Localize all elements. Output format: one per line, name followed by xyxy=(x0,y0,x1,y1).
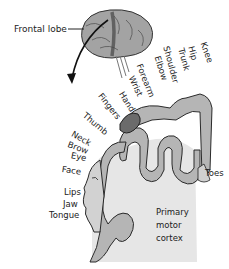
label-region-line-3: cortex xyxy=(156,234,183,243)
label-jaw: Jaw xyxy=(63,200,78,209)
label-tongue: Tongue xyxy=(49,211,79,220)
label-frontal-lobe: Frontal lobe xyxy=(14,25,67,34)
diagram-artwork xyxy=(0,0,229,269)
face-profile xyxy=(83,160,104,232)
label-region-line-1: Primary xyxy=(156,208,189,217)
motor-cortex-diagram: Frontal lobe Knee Hip Trunk Shoulder Elb… xyxy=(0,0,229,269)
label-face: Face xyxy=(61,165,81,176)
label-lips: Lips xyxy=(64,188,81,197)
label-region-line-2: motor xyxy=(156,221,182,230)
label-toes: Toes xyxy=(205,169,224,178)
